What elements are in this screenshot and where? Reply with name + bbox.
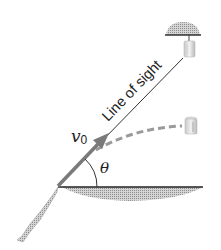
ground-shading xyxy=(62,187,203,201)
falling-can xyxy=(185,117,197,134)
electromagnet xyxy=(165,22,201,42)
projectile-trajectory xyxy=(96,126,182,150)
angle-label: θ xyxy=(100,159,109,177)
line-of-sight-label: Line of sight xyxy=(99,57,165,124)
launcher-tube xyxy=(17,187,58,242)
angle-arc xyxy=(85,159,97,187)
monkey-hunter-diagram: Line of sight v0 θ xyxy=(0,0,221,250)
suspended-can xyxy=(184,41,195,57)
velocity-label: v0 xyxy=(71,126,88,147)
